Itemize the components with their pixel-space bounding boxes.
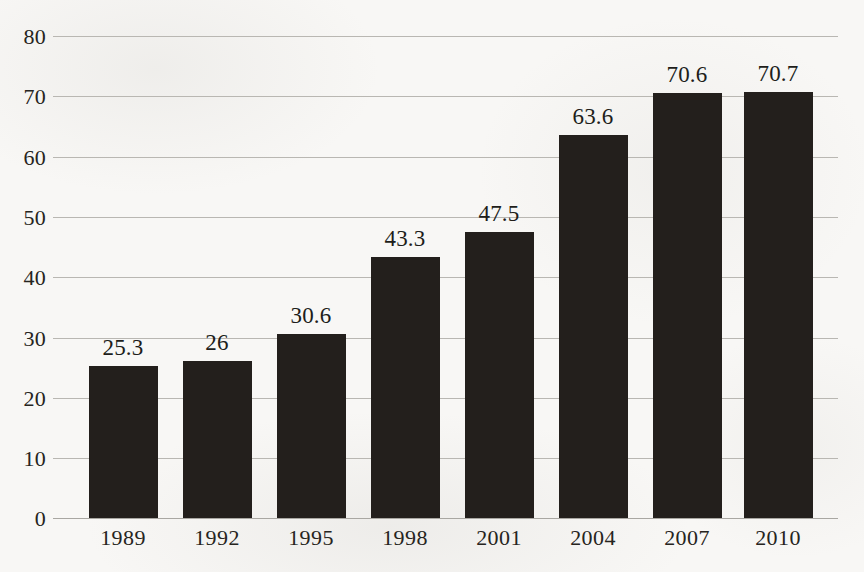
- ytick-label-40: 40: [23, 267, 46, 289]
- value-label-1995: 30.6: [256, 304, 366, 327]
- value-label-2004: 63.6: [538, 105, 648, 128]
- bar-2007: [653, 93, 722, 518]
- xtick-label-2010: 2010: [723, 527, 833, 549]
- ytick-label-70: 70: [23, 86, 46, 108]
- ytick-label-10: 10: [23, 448, 46, 470]
- axis-baseline: [53, 518, 838, 519]
- bar-1989: [89, 366, 158, 518]
- bar-2010: [744, 92, 813, 518]
- value-label-2001: 47.5: [444, 202, 554, 225]
- ytick-label-0: 0: [35, 508, 46, 530]
- ytick-label-30: 30: [23, 328, 46, 350]
- bar-2001: [465, 232, 534, 518]
- bar-chart: 80 70 60 50 40 30 20 10 0 25.3 26 30.6 4…: [0, 0, 864, 572]
- ytick-label-80: 80: [23, 26, 46, 48]
- bar-1998: [371, 257, 440, 518]
- ytick-label-60: 60: [23, 147, 46, 169]
- value-label-2010: 70.7: [723, 62, 833, 85]
- gridline-80: [53, 36, 838, 37]
- value-label-1992: 26: [162, 331, 272, 354]
- bar-1992: [183, 361, 252, 518]
- ytick-label-20: 20: [23, 388, 46, 410]
- ytick-label-50: 50: [23, 207, 46, 229]
- bar-2004: [559, 135, 628, 518]
- value-label-1998: 43.3: [350, 227, 460, 250]
- bar-1995: [277, 334, 346, 518]
